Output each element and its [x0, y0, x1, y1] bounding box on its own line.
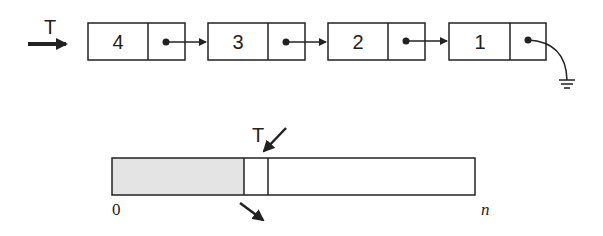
list-node: 1 — [449, 23, 575, 88]
list-node: 3 — [208, 23, 326, 60]
ground-icon — [559, 80, 575, 88]
pop-arrow-icon — [240, 203, 263, 220]
start-index-label: 0 — [112, 200, 121, 219]
diagram-root: T 4 3 2 1 — [0, 0, 603, 236]
top-label: T — [252, 124, 264, 146]
array-block: T 0 n — [112, 124, 490, 220]
node-value: 3 — [232, 31, 243, 53]
head-label: T — [44, 16, 56, 38]
head-pointer: T — [28, 16, 66, 44]
node-value: 1 — [474, 31, 485, 53]
node-value: 4 — [112, 31, 123, 53]
list-node: 4 — [88, 23, 206, 60]
node-value: 2 — [352, 31, 363, 53]
end-index-label: n — [481, 200, 490, 219]
list-node: 2 — [328, 23, 447, 60]
push-arrow-icon — [264, 128, 286, 151]
filled-region — [112, 158, 244, 195]
diagram-canvas: T 4 3 2 1 — [0, 0, 603, 236]
